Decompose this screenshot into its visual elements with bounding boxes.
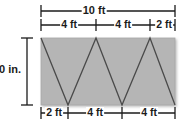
- label-top-segment-1: 4 ft: [60, 19, 78, 30]
- geometry-figure: 10 ft 4 ft 4 ft 2 ft 2 ft 4 ft 4 ft 60 i…: [0, 0, 186, 131]
- dimension-height: [21, 38, 33, 105]
- label-bottom-segment-2: 4 ft: [86, 107, 104, 118]
- shaded-rectangle: [41, 38, 175, 105]
- label-top-segment-3: 2 ft: [155, 19, 173, 30]
- label-height: 60 in.: [0, 64, 22, 75]
- label-bottom-segment-1: 2 ft: [45, 107, 63, 118]
- label-top-segment-2: 4 ft: [114, 19, 132, 30]
- dimension-overall-width: [41, 5, 175, 17]
- label-overall-width: 10 ft: [82, 5, 107, 16]
- label-bottom-segment-3: 4 ft: [140, 107, 158, 118]
